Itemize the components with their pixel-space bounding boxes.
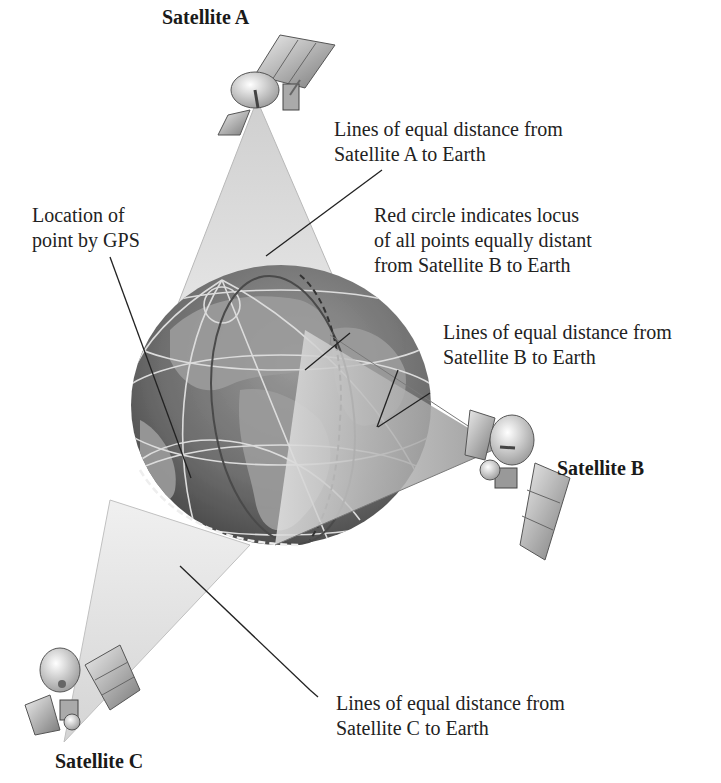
gps-location-line-2: point by GPS	[32, 228, 140, 253]
satellite-b-label: Satellite B	[557, 457, 644, 480]
satellite-a-lines-line-2: Satellite A to Earth	[334, 142, 563, 167]
satellite-c-lines-line-1: Lines of equal distance from	[336, 691, 565, 716]
satellite-b-lines-line-1: Lines of equal distance from	[443, 320, 672, 345]
satellite-c-lines-line-2: Satellite C to Earth	[336, 716, 565, 741]
red-circle-label: Red circle indicates locus of all points…	[374, 203, 592, 278]
red-circle-line-3: from Satellite B to Earth	[374, 253, 592, 278]
gps-location-label: Location of point by GPS	[32, 203, 140, 253]
satellite-b-lines-label: Lines of equal distance from Satellite B…	[443, 320, 672, 370]
satellite-b-lines-line-2: Satellite B to Earth	[443, 345, 672, 370]
satellite-b-icon	[465, 410, 570, 560]
satellite-c-lines-label: Lines of equal distance from Satellite C…	[336, 691, 565, 741]
cone-satellite-c	[64, 500, 250, 742]
red-circle-line-2: of all points equally distant	[374, 228, 592, 253]
satellite-a-lines-label: Lines of equal distance from Satellite A…	[334, 117, 563, 167]
satellite-c-label: Satellite C	[55, 750, 143, 773]
red-circle-line-1: Red circle indicates locus	[374, 203, 592, 228]
satellite-a-lines-line-1: Lines of equal distance from	[334, 117, 563, 142]
satellite-a-icon	[218, 35, 335, 135]
satellite-a-label: Satellite A	[162, 6, 249, 29]
gps-location-line-1: Location of	[32, 203, 140, 228]
